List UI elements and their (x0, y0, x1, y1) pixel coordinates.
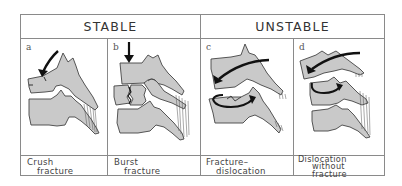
caption-crush-fracture: Crush fracture (21, 156, 108, 176)
caption-row: Crush fracture Burst fracture Fracture– … (21, 155, 384, 175)
caption-dislocation-without-fracture: Dislocation without fracture (294, 156, 384, 176)
caption-line: fracture (27, 167, 107, 176)
burst-fracture-drawing (108, 39, 201, 155)
crush-fracture-drawing (21, 39, 108, 155)
panel-fracture-dislocation: c (201, 39, 294, 155)
group-header-stable: STABLE (21, 15, 201, 39)
caption-line: fracture (298, 171, 384, 178)
caption-line: dislocation (206, 167, 293, 176)
panel-burst-fracture: b (108, 39, 201, 155)
fracture-dislocation-drawing (201, 39, 294, 155)
dislocation-without-fracture-drawing (294, 39, 384, 155)
caption-line: fracture (114, 167, 200, 176)
spinal-injury-classification-figure: STABLE UNSTABLE a b (20, 14, 385, 176)
group-header-unstable: UNSTABLE (201, 15, 384, 39)
caption-burst-fracture: Burst fracture (108, 156, 201, 176)
caption-fracture-dislocation: Fracture– dislocation (201, 156, 294, 176)
panel-dislocation-without-fracture: d (294, 39, 384, 155)
panel-crush-fracture: a (21, 39, 108, 155)
